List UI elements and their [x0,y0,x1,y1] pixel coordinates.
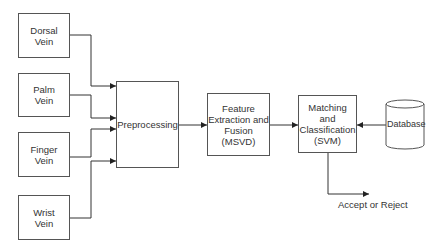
accept-or-reject-label: Accept or Reject [338,199,408,210]
finger-vein-box: Finger Vein [18,132,70,177]
edge-dorsal-preprocessing [70,35,116,86]
wrist-vein-box: Wrist Vein [18,195,70,240]
edge-wrist-preprocessing [70,161,116,218]
preprocessing-box: Preprocessing [116,81,179,168]
database-label: Database [387,119,424,129]
edge-matching-output [328,153,369,194]
edge-finger-preprocessing [70,129,116,157]
matching-classification-box: Matching and Classification (SVM) [298,95,357,153]
edge-palm-preprocessing [70,95,116,118]
feature-extraction-box: Feature Extraction and Fusion (MSVD) [207,93,270,156]
dorsal-vein-box: Dorsal Vein [18,13,70,58]
palm-vein-box: Palm Vein [18,73,70,117]
